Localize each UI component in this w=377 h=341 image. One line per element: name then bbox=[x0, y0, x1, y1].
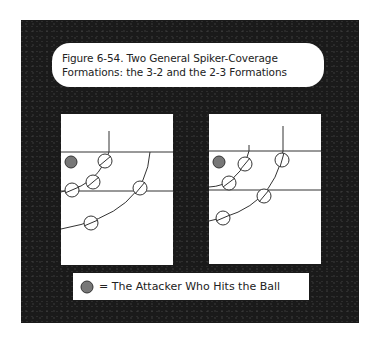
figure-title-box: Figure 6-54. Two General Spiker-Coverage… bbox=[52, 43, 324, 87]
figure-frame: Figure 6-54. Two General Spiker-Coverage… bbox=[21, 20, 359, 323]
attacker-legend-icon bbox=[80, 280, 94, 294]
figure-title-line-2: Formations: the 3-2 and the 2-3 Formatio… bbox=[62, 65, 324, 79]
court-diagram-left bbox=[61, 114, 173, 265]
diagram-2-3-formation bbox=[209, 114, 321, 264]
outer-coverage-arc bbox=[209, 126, 283, 221]
attacker-icon bbox=[65, 156, 77, 168]
court-diagram-right bbox=[209, 114, 321, 264]
attacker-icon bbox=[213, 156, 225, 168]
diagram-3-2-formation bbox=[61, 114, 173, 265]
legend-text: = The Attacker Who Hits the Ball bbox=[99, 280, 280, 293]
figure-title-line-1: Figure 6-54. Two General Spiker-Coverage bbox=[62, 51, 324, 65]
legend-box: = The Attacker Who Hits the Ball bbox=[73, 273, 309, 300]
